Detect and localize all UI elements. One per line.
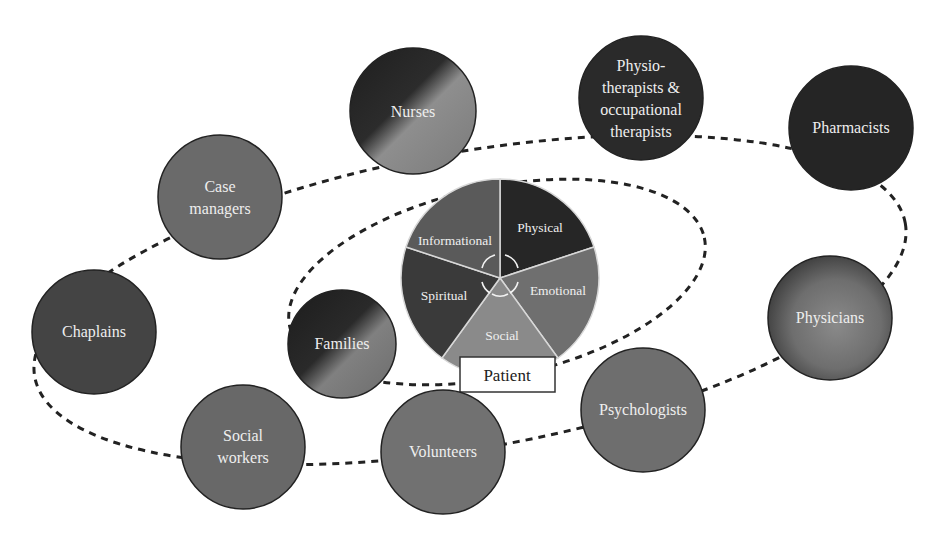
node-volunteers: Volunteers [381,390,505,514]
care-team-diagram: Physical Emotional Social Spiritual Info… [0,0,940,537]
node-label: Case [204,178,235,195]
patient-needs-pie: Physical Emotional Social Spiritual Info… [401,179,599,377]
segment-label-social: Social [485,328,519,343]
node-label: Pharmacists [812,119,889,136]
node-chaplains: Chaplains [32,270,156,394]
node-label: occupational [600,101,682,119]
node-psychologists: Psychologists [581,348,705,472]
node-label: Families [314,335,369,352]
node-label: Chaplains [62,323,126,341]
segment-label-physical: Physical [517,220,563,235]
node-label: workers [217,449,269,466]
node-label: therapists & [602,79,680,97]
node-social-workers: Social workers [181,385,305,509]
node-families: Families [288,290,396,398]
patient-label: Patient [483,366,530,385]
patient-box: Patient [460,357,555,392]
node-label: Physicians [796,309,864,327]
node-label: Nurses [391,103,435,120]
node-nurses: Nurses [350,48,476,174]
node-label: Psychologists [599,401,687,419]
segment-label-informational: Informational [418,233,492,248]
node-label: managers [189,200,250,218]
node-label: Volunteers [409,443,477,460]
node-physicians: Physicians [768,256,892,380]
node-label: therapists [610,123,671,141]
node-case-managers: Case managers [158,135,282,259]
node-physiotherapists: Physio- therapists & occupational therap… [579,36,703,160]
node-label: Social [223,427,264,444]
segment-label-emotional: Emotional [530,283,586,298]
node-pharmacists: Pharmacists [789,66,913,190]
node-label: Physio- [617,57,666,75]
segment-label-spiritual: Spiritual [421,288,468,303]
